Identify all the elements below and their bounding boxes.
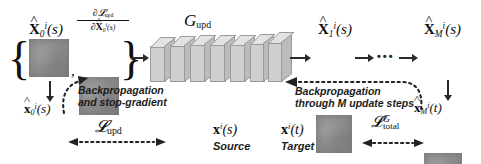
label-loss-upd: 𝓛upd (95, 118, 122, 136)
figure-canvas: X0i(s) ∂𝓛upd ∂X0i(s) { , } Gupd (0, 0, 481, 164)
states-ellipsis: ••• (377, 50, 395, 62)
label-input-gradient: ∂𝓛upd ∂X0i(s) (77, 8, 129, 33)
caption-backprop-left-line2: and stop-gradient (78, 96, 167, 108)
neural-network-slabs (150, 30, 290, 82)
arrow-ellipsis-to-stateM (399, 52, 419, 64)
label-state-1: X1i(s) (318, 22, 352, 39)
arrow-state1-to-ellipsis (355, 52, 375, 64)
label-target-image: xi(t) (281, 122, 304, 137)
caption-source: Source (213, 140, 250, 153)
feature-map-input-state (29, 39, 69, 77)
dotted-arrow-loss-total (362, 137, 424, 149)
dotted-arrow-loss-upd (68, 136, 166, 148)
label-generator: Gupd (184, 12, 211, 30)
arrow-stateM-to-reconM (442, 80, 454, 102)
caption-target: Target (281, 140, 314, 153)
label-recon-0: x0i(s) (24, 102, 51, 117)
caption-backprop-right-line1: Backpropagation (295, 85, 414, 97)
caption-backprop-left: Backpropagation and stop-gradient (78, 84, 167, 109)
caption-backprop-right-line2: through M update steps (295, 97, 414, 109)
label-state-M: XMi(s) (424, 22, 461, 39)
brace-open: { (8, 36, 30, 82)
caption-backprop-right: Backpropagation through M update steps (295, 85, 414, 110)
arrow-input-to-generator (131, 52, 149, 64)
feature-map-state-1 (316, 115, 352, 153)
feature-map-state-M (424, 153, 462, 164)
caption-backprop-left-line1: Backpropagation (78, 84, 167, 96)
arrow-generator-to-state1 (290, 52, 312, 64)
label-input-state: X0i(s) (29, 22, 63, 39)
label-source-image: xi(s) (213, 122, 237, 137)
